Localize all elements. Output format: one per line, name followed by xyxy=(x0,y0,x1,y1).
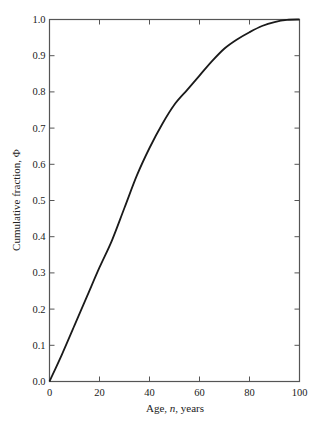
y-tick-label: 0.9 xyxy=(32,50,45,61)
y-tick-label: 0.6 xyxy=(32,159,45,170)
y-tick-label: 0.1 xyxy=(32,340,45,351)
x-axis-label: Age, n, years xyxy=(146,402,204,414)
y-tick-label: 0.5 xyxy=(32,195,45,206)
x-tick-label: 0 xyxy=(47,387,52,398)
y-tick-label: 1.0 xyxy=(32,14,45,25)
x-tick-label: 80 xyxy=(244,387,255,398)
y-tick-label: 0.0 xyxy=(32,376,45,387)
y-axis-label: Cumulative fraction, Φ xyxy=(10,149,22,251)
y-tick-label: 0.8 xyxy=(32,86,45,97)
axis-ticks xyxy=(50,20,300,382)
data-line xyxy=(50,20,300,382)
plot-frame xyxy=(50,20,300,382)
y-tick-labels: 0.00.10.20.30.40.50.60.70.80.91.0 xyxy=(32,14,46,387)
cumulative-fraction-chart: 020406080100 0.00.10.20.30.40.50.60.70.8… xyxy=(0,0,319,425)
x-tick-labels: 020406080100 xyxy=(47,387,308,398)
y-tick-label: 0.2 xyxy=(32,304,45,315)
x-tick-label: 100 xyxy=(292,387,308,398)
x-tick-label: 40 xyxy=(144,387,155,398)
x-tick-label: 60 xyxy=(194,387,205,398)
y-tick-label: 0.3 xyxy=(32,267,45,278)
x-tick-label: 20 xyxy=(94,387,105,398)
y-tick-label: 0.4 xyxy=(32,231,46,242)
y-tick-label: 0.7 xyxy=(32,123,45,134)
